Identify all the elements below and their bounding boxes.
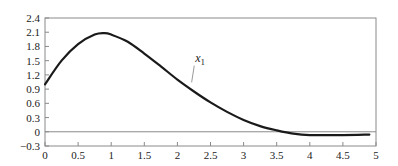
label-leader-line [192, 66, 195, 83]
x-tick-label: 3 [241, 149, 247, 161]
y-tick-label: 0 [35, 126, 41, 138]
x-tick-label: 1.5 [137, 149, 151, 161]
x-tick-label: 1 [108, 149, 114, 161]
x-tick-label: 2.5 [204, 149, 218, 161]
x-tick-label: 3.5 [270, 149, 284, 161]
x-tick-label: 4 [307, 149, 313, 161]
y-tick-label: 2.4 [26, 12, 40, 24]
series-x1 [45, 33, 369, 135]
x-tick-label: 5 [373, 149, 379, 161]
plot-border [45, 18, 376, 146]
y-tick-label: −0.3 [20, 140, 40, 152]
y-tick-label: 1.5 [26, 55, 40, 67]
series-label-subscript: 1 [201, 57, 206, 67]
series-line [45, 33, 369, 135]
y-tick-label: 2.1 [26, 26, 40, 38]
x-tick-label: 0 [42, 149, 48, 161]
line-chart: −0.300.30.60.91.21.51.82.12.4 00.511.522… [0, 0, 398, 166]
y-tick-label: 1.8 [26, 40, 40, 52]
x-tick-label: 2 [175, 149, 181, 161]
plot-frame [45, 18, 376, 146]
series-label: x1 [194, 51, 205, 67]
y-tick-label: 0.9 [26, 83, 40, 95]
x-axis: 00.511.522.533.544.55 [42, 142, 379, 161]
series-label-x1: x1 [192, 51, 205, 83]
y-tick-label: 0.6 [26, 97, 40, 109]
x-tick-label: 4.5 [336, 149, 350, 161]
y-tick-label: 1.2 [26, 69, 40, 81]
y-tick-label: 0.3 [26, 112, 40, 124]
x-tick-label: 0.5 [71, 149, 85, 161]
